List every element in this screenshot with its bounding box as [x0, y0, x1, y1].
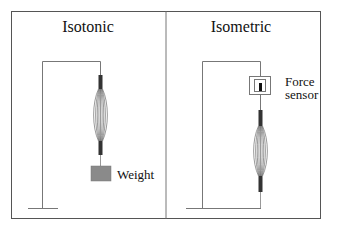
- isometric-title: Isometric: [211, 18, 271, 35]
- isotonic-stand: [28, 62, 101, 209]
- isometric-panel: Isometric Force sensor: [186, 18, 319, 209]
- force-sensor: [250, 77, 271, 95]
- isometric-muscle: [254, 110, 268, 192]
- muscle-contraction-diagram: Isotonic Weight Isometric: [0, 0, 337, 226]
- isotonic-panel: Isotonic Weight: [28, 18, 155, 209]
- weight-label: Weight: [117, 167, 155, 182]
- isotonic-title: Isotonic: [62, 18, 114, 35]
- weight-block: [91, 166, 111, 181]
- sensor-bar: [259, 83, 262, 91]
- isotonic-muscle: [94, 75, 108, 155]
- force-sensor-label-line2: sensor: [285, 87, 319, 102]
